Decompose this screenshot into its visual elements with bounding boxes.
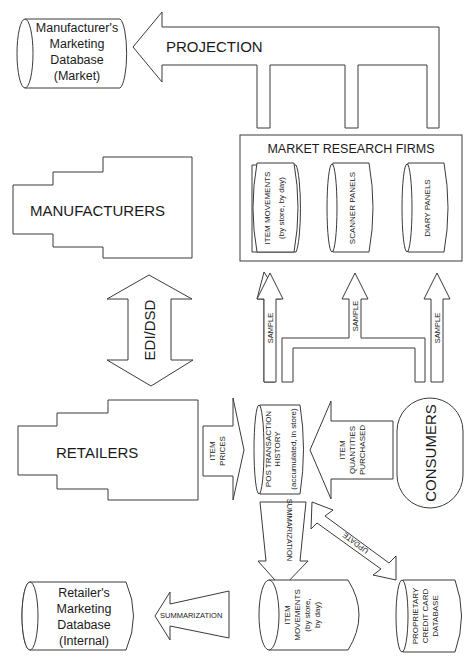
manufacturers-label: MANUFACTURERS [30, 202, 165, 219]
pos-history-line-2: HISTORY [273, 431, 282, 467]
edi-dsd-label: EDI/DSD [141, 299, 158, 360]
summarization-down-arrow: SUMMARIZATION [258, 499, 308, 588]
item-quantities-arrow: ITEM QUANTITIES PURCHASED [310, 401, 393, 499]
research-scanner-panels-source: SCANNER PANELS [327, 163, 373, 252]
sample-label-left: SAMPLE [266, 313, 275, 343]
item-movements-store-line-4: by day) [313, 602, 322, 629]
sample-label-middle: SAMPLE [351, 301, 360, 331]
market-research-firms: MARKET RESEARCH FIRMS ITEM MOVEMENTS (by… [240, 135, 462, 261]
retail-data-flow-diagram: Manufacturer's Marketing Database (Marke… [0, 0, 473, 660]
consumers-node: CONSUMERS [397, 398, 463, 508]
research-scanner-panels-label: SCANNER PANELS [348, 172, 357, 244]
retailer-db-line-1: Retailer's [58, 586, 110, 600]
item-quantities-line-3: PURCHASED [358, 425, 367, 475]
manufacturers-node: MANUFACTURERS [13, 157, 192, 258]
research-item-movements-line-1: ITEM MOVEMENTS [263, 172, 272, 245]
market-research-title: MARKET RESEARCH FIRMS [267, 142, 434, 156]
research-item-movements-line-2: (by store, by day) [277, 177, 286, 239]
projection-label: PROJECTION [166, 38, 263, 55]
consumers-label: CONSUMERS [422, 404, 439, 502]
edi-dsd-arrow: EDI/DSD [107, 275, 193, 386]
item-prices-arrow: ITEM PRICES [203, 398, 244, 500]
pos-history-line-1: POS TRANSACTION [264, 411, 273, 488]
manufacturer-db-line-2: Marketing [50, 37, 105, 51]
manufacturer-marketing-database: Manufacturer's Marketing Database (Marke… [17, 19, 127, 88]
manufacturer-db-line-1: Manufacturer's [36, 21, 118, 35]
item-movements-store-line-2: MOVEMENTS [293, 589, 302, 641]
summarization-left-label: SUMMARIZATION [160, 611, 222, 620]
retailers-node: RETAILERS [18, 400, 198, 500]
retailers-label: RETAILERS [56, 444, 138, 461]
summarization-left-arrow: SUMMARIZATION [155, 591, 229, 640]
credit-card-db-line-1: PROPRIETARY [411, 587, 420, 644]
pos-transaction-history: POS TRANSACTION HISTORY (accumulated, in… [254, 405, 304, 494]
credit-card-database: PROPRIETARY CREDIT CARD DATABASE [396, 580, 462, 652]
manufacturer-db-line-3: Database [50, 53, 104, 67]
item-quantities-line-2: QUANTITIES [348, 426, 357, 474]
update-arrow: UPDATE [311, 502, 396, 580]
sample-label-right: SAMPLE [433, 313, 442, 343]
projection-arrow: PROJECTION [133, 12, 439, 128]
item-prices-line-2: PRICES [218, 436, 227, 466]
retailer-db-line-4: (Internal) [59, 634, 109, 648]
item-prices-line-1: ITEM [208, 441, 217, 460]
research-diary-panels-label: DIARY PANELS [423, 179, 432, 236]
retailer-db-line-3: Database [57, 618, 111, 632]
credit-card-db-line-2: CREDIT CARD [421, 589, 430, 644]
research-item-movements-source: ITEM MOVEMENTS (by store, by day) [252, 163, 300, 252]
pos-history-line-3: (accumulated, in store) [289, 408, 298, 490]
item-movements-store: ITEM MOVEMENTS (by store, by day) [259, 580, 359, 650]
manufacturer-db-line-4: (Market) [54, 69, 101, 83]
research-diary-panels-source: DIARY PANELS [402, 163, 448, 252]
item-quantities-line-1: ITEM [338, 440, 347, 459]
retailer-marketing-database: Retailer's Marketing Database (Internal) [22, 582, 134, 650]
item-movements-store-line-1: ITEM [283, 605, 292, 624]
retailer-db-line-2: Marketing [57, 602, 112, 616]
summarization-down-label: SUMMARIZATION [285, 499, 294, 561]
item-movements-store-line-3: (by store, [303, 598, 312, 631]
sample-arrows: SAMPLE SAMPLE SAMPLE [257, 272, 450, 382]
credit-card-db-line-3: DATABASE [431, 595, 440, 637]
